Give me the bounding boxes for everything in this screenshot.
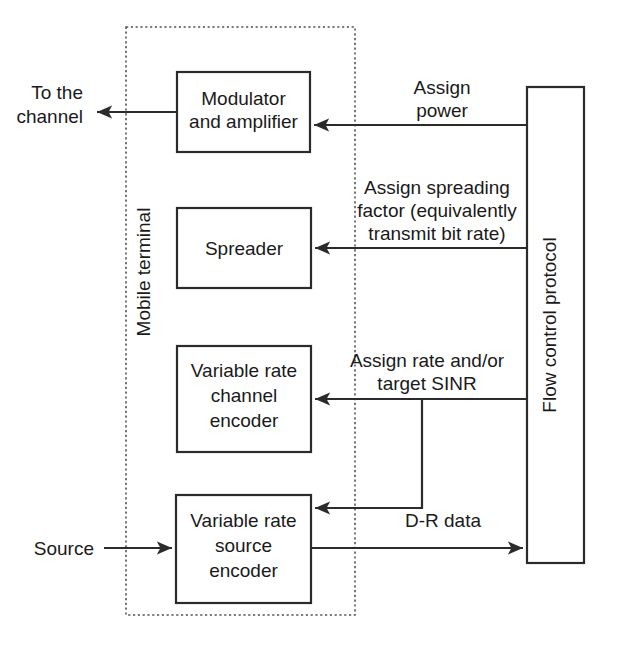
block-channel-encoder-line-3: encoder <box>210 410 279 431</box>
label-assign-spreading-line-1: Assign spreading <box>364 177 510 198</box>
block-modulator-line-2: and amplifier <box>189 111 298 132</box>
block-channel-encoder-line-2: channel <box>211 385 278 406</box>
block-source-encoder-line-1: Variable rate <box>190 510 296 531</box>
block-flow-control-protocol-label: Flow control protocol <box>539 237 560 412</box>
label-assign-rate-line-2: target SINR <box>377 373 476 394</box>
block-source-encoder-line-3: encoder <box>209 560 278 581</box>
block-spreader-line-1: Spreader <box>205 238 284 259</box>
label-to-the-channel-line-2: channel <box>16 106 83 127</box>
label-assign-spreading-line-2: factor (equivalently <box>357 200 517 221</box>
block-source-encoder-line-2: source <box>215 535 272 556</box>
edge-assign-rate-to-source-encoder <box>315 399 422 508</box>
label-assign-power-line-1: Assign <box>413 77 470 98</box>
label-to-the-channel-line-1: To the <box>31 82 83 103</box>
label-dr-data: D-R data <box>405 510 481 531</box>
label-source: Source <box>34 538 94 559</box>
block-channel-encoder-line-1: Variable rate <box>191 360 297 381</box>
label-assign-power-line-2: power <box>416 100 468 121</box>
block-diagram: Mobile terminal Modulator and amplifier … <box>0 0 619 649</box>
label-assign-spreading-line-3: transmit bit rate) <box>368 223 505 244</box>
block-modulator-line-1: Modulator <box>201 88 286 109</box>
diagram-canvas: Mobile terminal Modulator and amplifier … <box>0 0 619 649</box>
label-assign-rate-line-1: Assign rate and/or <box>350 350 505 371</box>
mobile-terminal-label: Mobile terminal <box>133 208 154 337</box>
